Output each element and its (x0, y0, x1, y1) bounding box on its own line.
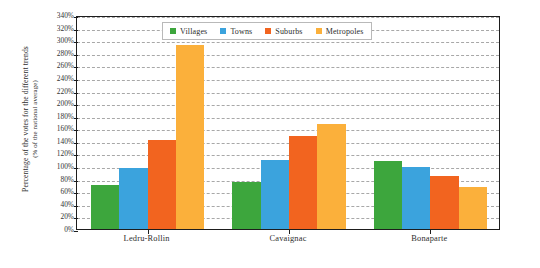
legend-swatch-icon (220, 28, 226, 34)
x-axis-category-labels: Ledru-RollinCavaignacBonaparte (76, 234, 500, 254)
y-axis-tick-label: 180% (34, 113, 74, 121)
bar-suburbs-cavaignac (289, 136, 317, 229)
y-axis-tick-labels: 0%20%40%60%80%100%120%140%160%180%200%22… (34, 16, 74, 230)
bar-suburbs-ledru-rollin (148, 140, 176, 229)
bar-metropoles-ledru-rollin (176, 45, 204, 229)
y-axis-tick-mark (74, 181, 78, 182)
plot-area (76, 16, 500, 230)
y-axis-tick-mark (74, 206, 78, 207)
y-axis-tick-mark (74, 143, 78, 144)
y-axis-tick-mark (74, 155, 78, 156)
legend-swatch-icon (316, 28, 322, 34)
bar-villages-bonaparte (374, 161, 402, 229)
bar-towns-cavaignac (261, 160, 289, 229)
bar-towns-ledru-rollin (119, 168, 147, 229)
y-axis-tick-label: 20% (34, 213, 74, 221)
y-axis-tick-mark (74, 105, 78, 106)
y-axis-tick-label: 240% (34, 75, 74, 83)
bars-layer (77, 17, 499, 229)
y-axis-tick-label: 200% (34, 100, 74, 108)
bar-villages-ledru-rollin (91, 185, 119, 229)
y-axis-tick-mark (74, 218, 78, 219)
legend-item-label: Villages (180, 27, 207, 36)
y-axis-tick-label: 0% (34, 226, 74, 234)
bar-suburbs-bonaparte (430, 176, 458, 230)
y-axis-tick-label: 320% (34, 25, 74, 33)
y-axis-tick-mark (74, 231, 78, 232)
x-axis-tick-mark (430, 229, 431, 234)
legend-item-villages[interactable]: Villages (170, 27, 207, 36)
y-axis-tick-label: 80% (34, 176, 74, 184)
y-axis-tick-label: 40% (34, 201, 74, 209)
y-axis-tick-label: 160% (34, 125, 74, 133)
y-axis-tick-mark (74, 168, 78, 169)
y-axis-tick-mark (74, 118, 78, 119)
bar-chart: Percentage of the votes for the differen… (0, 0, 540, 268)
y-axis-tick-mark (74, 67, 78, 68)
x-axis-category-label: Cavaignac (269, 234, 306, 243)
y-axis-tick-label: 120% (34, 150, 74, 158)
y-axis-tick-mark (74, 42, 78, 43)
legend-item-label: Suburbs (275, 27, 302, 36)
y-axis-tick-label: 60% (34, 188, 74, 196)
legend-item-metropoles[interactable]: Metropoles (316, 27, 364, 36)
legend-item-suburbs[interactable]: Suburbs (265, 27, 302, 36)
y-axis-tick-mark (74, 93, 78, 94)
y-axis-tick-label: 340% (34, 12, 74, 20)
y-axis-tick-mark (74, 55, 78, 56)
y-axis-tick-label: 260% (34, 62, 74, 70)
bar-metropoles-bonaparte (459, 187, 487, 229)
y-axis-tick-mark (74, 80, 78, 81)
y-axis-tick-mark (74, 30, 78, 31)
y-axis-tick-label: 140% (34, 138, 74, 146)
bar-towns-bonaparte (402, 167, 430, 229)
chart-legend: VillagesTownsSuburbsMetropoles (162, 22, 372, 40)
legend-item-towns[interactable]: Towns (220, 27, 252, 36)
x-axis-category-label: Bonaparte (411, 234, 447, 243)
legend-item-label: Towns (230, 27, 252, 36)
y-axis-tick-mark (74, 17, 78, 18)
x-axis-category-label: Ledru-Rollin (124, 234, 170, 243)
y-axis-tick-mark (74, 130, 78, 131)
y-axis-tick-label: 300% (34, 37, 74, 45)
y-axis-tick-label: 100% (34, 163, 74, 171)
plot-inner (77, 17, 499, 229)
y-axis-tick-mark (74, 193, 78, 194)
y-axis-title-line1: Percentage of the votes for the differen… (22, 8, 31, 230)
bar-metropoles-cavaignac (317, 124, 345, 229)
legend-swatch-icon (265, 28, 271, 34)
y-axis-tick-label: 280% (34, 50, 74, 58)
x-axis-tick-mark (148, 229, 149, 234)
legend-swatch-icon (170, 28, 176, 34)
legend-item-label: Metropoles (326, 27, 364, 36)
bar-villages-cavaignac (232, 182, 260, 229)
y-axis-tick-label: 220% (34, 88, 74, 96)
x-axis-tick-mark (289, 229, 290, 234)
